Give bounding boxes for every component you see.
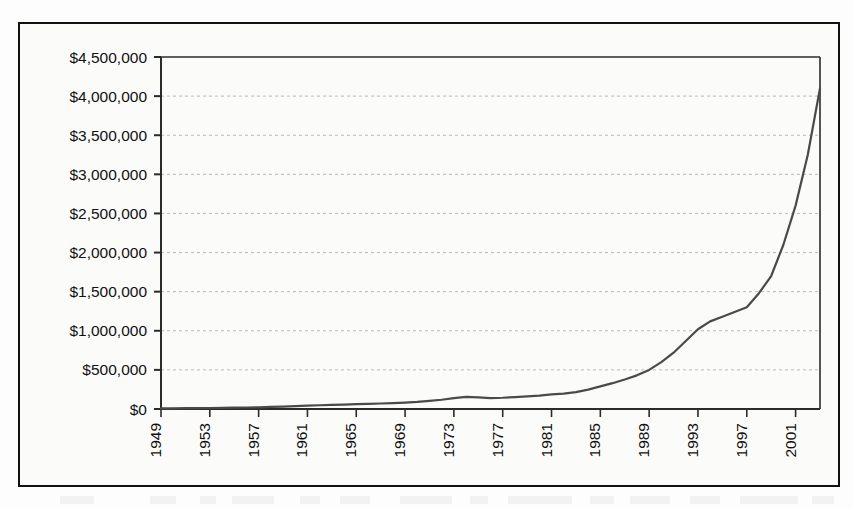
y-axis-tick-label: $4,000,000 [69,88,147,105]
scan-artifact [508,496,572,504]
scan-artifact [400,496,452,504]
y-axis-tick-label: $0 [130,401,148,418]
x-axis-tick-label: 1977 [489,423,506,457]
y-axis-tick-label: $500,000 [82,361,147,378]
x-axis-tick-label: 1961 [293,423,310,457]
y-axis-tick-label: $1,500,000 [69,283,147,300]
scan-artifact [690,496,720,504]
x-axis-tick-label: 1949 [147,423,164,457]
x-axis-tick-label: 2001 [782,423,799,457]
scan-edge-artifacts [0,494,853,508]
line-chart: $4,500,000$4,000,000$3,500,000$3,000,000… [0,0,853,508]
scan-artifact [470,496,488,504]
x-axis-tick-label: 1969 [391,423,408,457]
y-axis-ticks [154,57,161,409]
y-axis-tick-label: $3,500,000 [69,127,147,144]
scan-artifact [150,496,176,504]
x-axis-tick-label: 1973 [440,423,457,457]
scan-artifact [60,496,94,504]
gridlines [161,96,820,370]
x-axis-tick-label: 1981 [538,423,555,457]
x-axis-tick-label: 1957 [245,423,262,457]
scan-artifact [630,496,670,504]
scan-artifact [232,496,274,504]
x-axis-tick-label: 1985 [586,423,603,457]
scan-artifact [340,496,370,504]
scan-artifact [200,496,216,504]
x-axis-tick-label: 1997 [733,423,750,457]
y-axis-tick-label: $1,000,000 [69,322,147,339]
x-axis-tick-labels: 1949195319571961196519691973197719811985… [147,423,799,457]
series-line-value [161,88,820,408]
x-axis-tick-label: 1953 [196,423,213,457]
plot-area-border [161,57,820,409]
y-axis-tick-labels: $4,500,000$4,000,000$3,500,000$3,000,000… [69,49,147,418]
x-axis-tick-label: 1993 [684,423,701,457]
y-axis-tick-label: $3,000,000 [69,166,147,183]
y-axis-tick-label: $2,500,000 [69,205,147,222]
scan-artifact [812,496,834,504]
y-axis-tick-label: $4,500,000 [69,49,147,66]
data-series-line [161,88,820,408]
x-axis-tick-label: 1989 [635,423,652,457]
scan-artifact [590,496,614,504]
x-axis-ticks [161,409,796,417]
y-axis-tick-label: $2,000,000 [69,244,147,261]
scan-artifact [740,496,798,504]
scan-artifact [300,496,320,504]
x-axis-tick-label: 1965 [342,423,359,457]
